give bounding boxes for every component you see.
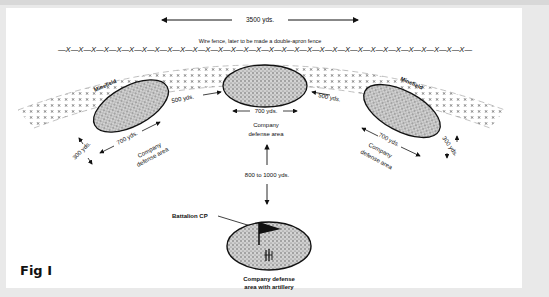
rear-company-label-1: Company defense bbox=[243, 276, 295, 282]
gap-left-label: 500 yds. bbox=[171, 93, 195, 104]
wire-fence: —X—X—X—X—X—X—X—X—X—X—X—X—X—X—X—X—X—X—X—X… bbox=[57, 46, 473, 53]
rear-distance-label: 800 to 1000 yds. bbox=[245, 172, 290, 178]
defense-diagram: × 3500 yds. Wire fence, later to be made… bbox=[0, 0, 549, 297]
figure-caption: Fig I bbox=[20, 263, 52, 278]
fence-label: Wire fence, later to be made a double-ap… bbox=[199, 38, 322, 44]
center-length-label: 700 yds. bbox=[255, 108, 278, 114]
left-length-label: 700 yds. bbox=[116, 130, 139, 146]
width-label: 3500 yds. bbox=[246, 16, 274, 24]
right-length-label: 700 yds. bbox=[378, 132, 401, 148]
width-dimension: 3500 yds. bbox=[162, 16, 358, 24]
center-company-area bbox=[223, 65, 307, 107]
right-depth-label: 300 yds. bbox=[441, 135, 459, 157]
center-company-label-1: Company bbox=[253, 122, 279, 128]
center-company-label-2: defense area bbox=[248, 131, 284, 137]
battalion-cp-label: Battalion CP bbox=[172, 213, 208, 219]
gap-right-label: 500 yds. bbox=[318, 92, 342, 103]
left-depth-label: 300 yds. bbox=[71, 140, 92, 161]
rear-company-label-2: area with artillery bbox=[244, 284, 294, 290]
